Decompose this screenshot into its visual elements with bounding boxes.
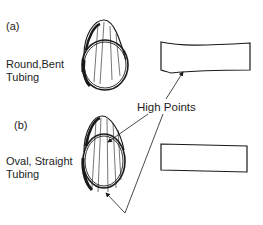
high-points-leaders (106, 72, 183, 213)
oval-straight-tube (83, 116, 125, 192)
diagram-drawing (0, 0, 263, 225)
round-bent-tube (82, 20, 128, 90)
bent-cross-section (161, 42, 250, 73)
straight-cross-section (161, 144, 247, 172)
